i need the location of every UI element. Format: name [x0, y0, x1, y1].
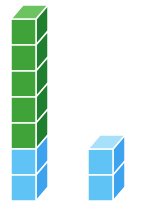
cube-front-face	[88, 175, 113, 201]
cube-stacks-diagram	[0, 0, 143, 218]
cube-front-face	[11, 71, 36, 97]
cube-front-face	[88, 149, 113, 175]
cube-front-face	[11, 97, 36, 123]
cube-front-face	[11, 123, 36, 149]
left-stack	[11, 5, 48, 201]
cube-front-face	[11, 45, 36, 71]
cube-front-face	[11, 19, 36, 45]
right-stack	[88, 135, 125, 201]
cube-front-face	[11, 149, 36, 175]
cube-front-face	[11, 175, 36, 201]
